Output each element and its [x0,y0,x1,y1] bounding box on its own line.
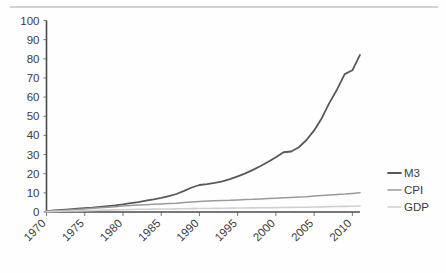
legend-label-m3: M3 [404,167,420,179]
y-tick-label: 0 [33,206,39,218]
x-tick-label: 1990 [174,217,201,244]
y-tick-label: 70 [27,72,40,84]
legend-label-gdp: GDP [404,201,429,213]
y-tick-label: 60 [27,91,40,103]
y-tick-label: 30 [27,149,40,161]
line-chart: 0102030405060708090100 19701975198019851… [0,0,446,273]
chart-page: 0102030405060708090100 19701975198019851… [0,0,446,273]
y-tick-label: 80 [27,53,40,65]
x-tick-label: 1995 [212,217,239,244]
x-tick-label: 2005 [289,217,316,244]
y-tick-label: 90 [27,34,40,46]
y-tick-label: 50 [27,110,40,122]
x-axis-tick-labels: 197019751980198519901995200020052010 [21,217,353,244]
y-axis-tick-labels: 0102030405060708090100 [20,15,39,219]
x-tick-label: 1970 [21,217,48,244]
x-tick-label: 1980 [98,217,125,244]
chart-svg: 0102030405060708090100 19701975198019851… [0,0,446,273]
y-tick-label: 40 [27,129,40,141]
y-tick-label: 100 [20,15,39,27]
y-tick-label: 10 [27,187,40,199]
data-series-group [47,55,361,212]
x-tick-label: 2010 [327,217,354,244]
x-tick-label: 1975 [60,217,87,244]
y-tick-label: 20 [27,168,40,180]
legend-label-cpi: CPI [404,184,423,196]
x-tick-label: 1985 [136,217,163,244]
chart-legend: M3CPIGDP [388,167,429,213]
x-tick-label: 2000 [251,217,278,244]
series-line-m3 [47,55,361,211]
